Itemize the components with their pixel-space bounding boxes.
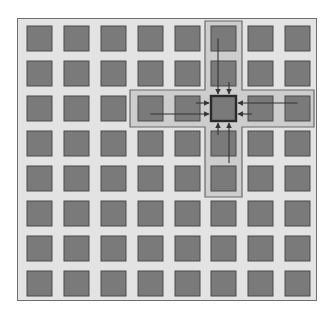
- grid-cell: [101, 61, 126, 86]
- grid-cell: [138, 61, 163, 86]
- grid-cell: [101, 236, 126, 261]
- grid-cell: [138, 271, 163, 296]
- grid-cell: [64, 26, 89, 51]
- grid-cell: [138, 166, 163, 191]
- grid-cell: [248, 61, 273, 86]
- grid-cell: [101, 271, 126, 296]
- grid-cell: [211, 26, 236, 51]
- grid-cells: [27, 26, 310, 296]
- grid-cell: [175, 96, 200, 121]
- grid-cell: [101, 26, 126, 51]
- grid-cell: [64, 271, 89, 296]
- grid-cell: [175, 201, 200, 226]
- grid-cell: [248, 96, 273, 121]
- grid-cell: [175, 131, 200, 156]
- grid-cell: [101, 131, 126, 156]
- grid-cell: [64, 201, 89, 226]
- grid-cell: [285, 166, 310, 191]
- grid-cell: [285, 271, 310, 296]
- grid-cell: [285, 96, 310, 121]
- grid-cell: [101, 96, 126, 121]
- grid-cell: [175, 26, 200, 51]
- grid-cell: [138, 26, 163, 51]
- grid-cell: [211, 166, 236, 191]
- grid-cell: [27, 236, 52, 261]
- grid-cell: [211, 61, 236, 86]
- grid-cell: [211, 131, 236, 156]
- grid-cell: [285, 61, 310, 86]
- grid-cell: [285, 26, 310, 51]
- center-cell: [211, 96, 236, 121]
- grid-cell: [101, 166, 126, 191]
- grid-cell: [285, 236, 310, 261]
- grid-cell: [138, 201, 163, 226]
- grid-cell: [27, 166, 52, 191]
- grid-cell: [175, 236, 200, 261]
- grid-cell: [138, 236, 163, 261]
- grid-cell: [101, 201, 126, 226]
- grid-cell: [211, 236, 236, 261]
- grid-cell: [27, 61, 52, 86]
- grid-diagram: [0, 0, 336, 319]
- grid-cell: [175, 166, 200, 191]
- grid-cell: [64, 61, 89, 86]
- grid-cell: [248, 271, 273, 296]
- grid-cell: [248, 26, 273, 51]
- grid-cell: [138, 131, 163, 156]
- grid-cell: [27, 131, 52, 156]
- grid-cell: [27, 96, 52, 121]
- grid-cell: [211, 271, 236, 296]
- grid-cell: [285, 131, 310, 156]
- grid-cell: [64, 96, 89, 121]
- grid-cell: [27, 271, 52, 296]
- grid-cell: [64, 166, 89, 191]
- grid-cell: [64, 131, 89, 156]
- grid-cell: [248, 166, 273, 191]
- grid-cell: [64, 236, 89, 261]
- grid-cell: [27, 201, 52, 226]
- grid-cell: [27, 26, 52, 51]
- grid-cell: [248, 236, 273, 261]
- grid-cell: [211, 201, 236, 226]
- grid-cell: [175, 61, 200, 86]
- grid-cell: [248, 131, 273, 156]
- grid-cell: [138, 96, 163, 121]
- grid-cell: [175, 271, 200, 296]
- grid-cell: [285, 201, 310, 226]
- grid-cell: [248, 201, 273, 226]
